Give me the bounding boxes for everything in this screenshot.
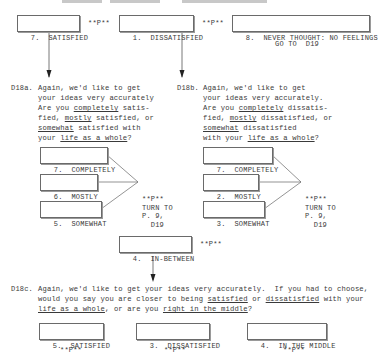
question-line: your life as a whole? [38,133,168,143]
option-code: 4. [261,342,270,350]
option-satisfied-box[interactable]: 7. SATISFIED [17,15,80,32]
question-line: somewhat satisfied with [38,123,168,133]
option-code: 3. [217,220,226,228]
skip-instruction: **P** [164,346,186,355]
d18a-option-completely[interactable]: 7. COMPLETELY [40,147,108,164]
question-id-d18b: D18b. [177,84,199,93]
option-label: MOSTLY [71,193,97,201]
option-label: SOMEWHAT [71,220,106,228]
d18a-option-somewhat[interactable]: 5. SOMEWHAT [40,201,102,218]
d18b-option-completely[interactable]: 7. COMPLETELY [203,147,273,164]
d18b-option-mostly[interactable]: 2. MOSTLY [203,174,259,191]
question-id-d18c: D18c. [11,285,33,294]
d18c-option-dissatisfied[interactable]: 3. DISSATISFIED [136,323,210,340]
option-label: SOMEWHAT [234,220,269,228]
skip-instruction: **P** [60,346,82,355]
question-line: Are you completely satis- [38,103,168,113]
question-line: your ideas very accurately [38,93,168,103]
option-code: 1. [133,34,142,42]
option-label: DISSATISFIED [150,34,203,42]
question-line: fied, mostly dissatisfied, or [203,113,368,123]
option-code: 7. [31,34,40,42]
question-line: would you say you are closer to being sa… [38,294,373,304]
question-line: Again, we'd like to get [203,83,368,93]
option-code: 7. [54,166,63,174]
skip-instruction: **P** [202,19,224,28]
question-line: your ideas very accurately. [203,93,368,103]
option-code: 6. [54,193,63,201]
option-code: 7. [217,166,226,174]
skip-instruction: **P** [88,19,110,28]
question-line: with your life as a whole? [203,133,368,143]
question-d18b-text: Again, we'd like to get your ideas very … [203,83,368,143]
d18c-option-satisfied[interactable]: 5. SATISFIED [39,323,104,340]
d18c-option-in-the-middle[interactable]: 4. IN THE MIDDLE [247,323,327,340]
option-dissatisfied-box[interactable]: 1. DISSATISFIED [119,15,194,32]
question-line: Again, we'd like to get [38,83,168,93]
question-line: life as a whole, or are you right in the… [38,304,373,314]
question-line: somewhat dissatisfied [203,123,368,133]
option-label: IN-BETWEEN [150,255,194,263]
question-line: fied, mostly satisfied, or [38,113,168,123]
d18b-skip-instruction: **P**TURN TOP. 9, D19 [305,178,336,238]
d18a-option-mostly[interactable]: 6. MOSTLY [40,174,98,191]
arrowhead-d18c [151,274,156,282]
connector-d18b-somewhat [264,182,301,209]
option-never-thought-box[interactable]: 8. NEVER THOUGHT: NO FEELINGS [232,15,370,32]
connector-d18a-somewhat [101,182,138,209]
question-id-d18a: D18a. [11,84,33,93]
option-code: 4. [133,255,142,263]
question-d18c-text: Again, we'd like to get your ideas very … [38,284,373,314]
option-label: COMPLETELY [71,166,115,174]
option-label: SATISFIED [48,34,88,42]
skip-instruction: **P** [200,240,222,249]
question-d18a-text: Again, we'd like to get your ideas very … [38,83,168,143]
go-to-instruction: GO TO D19 [275,40,319,49]
arrowhead-d18b [180,70,185,78]
option-code: 2. [217,193,226,201]
option-code: 5. [54,220,63,228]
arrowhead-d18a [47,70,52,78]
option-code: 3. [150,342,159,350]
option-in-between-box[interactable]: 4. IN-BETWEEN [119,236,192,253]
option-code: 8. [246,34,255,42]
skip-instruction: **P** [283,346,305,355]
d18b-option-somewhat[interactable]: 3. SOMEWHAT [203,201,265,218]
option-label: COMPLETELY [234,166,278,174]
question-line: Are you completely dissatis- [203,103,368,113]
question-line: Again, we'd like to get your ideas very … [38,284,373,294]
option-label: MOSTLY [234,193,260,201]
d18a-skip-instruction: **P**TURN TOP. 9, D19 [142,178,173,238]
